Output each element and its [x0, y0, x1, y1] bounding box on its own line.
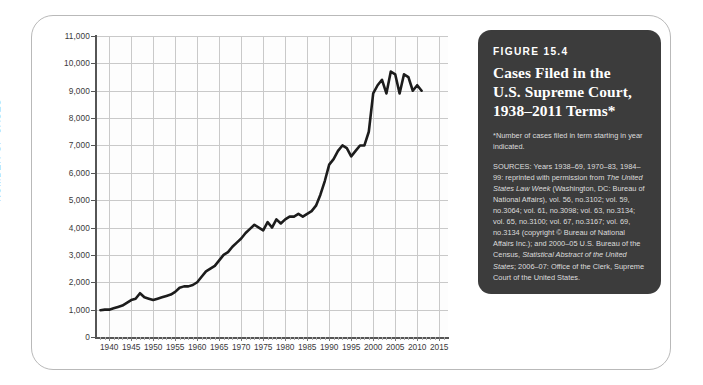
- x-axis-minor-tick: [369, 337, 370, 340]
- x-axis-minor-tick: [246, 337, 247, 340]
- sources-text-2: (Washington, DC: Bureau of National Affa…: [493, 184, 645, 260]
- x-axis-tick-mark: [285, 337, 286, 341]
- x-axis-minor-tick: [237, 337, 238, 340]
- x-axis-minor-tick: [378, 337, 379, 340]
- x-axis-minor-tick: [325, 337, 326, 340]
- x-axis-minor-tick: [158, 337, 159, 340]
- sources-text-3: ; 2006–07: Office of the Clerk, Supreme …: [493, 262, 644, 282]
- y-axis-tick-mark: [91, 200, 95, 201]
- y-axis-tick-label: 9,000: [32, 87, 90, 95]
- x-axis-minor-tick: [430, 337, 431, 340]
- x-axis-minor-tick: [171, 337, 172, 340]
- x-axis-minor-tick: [224, 337, 225, 340]
- x-axis-minor-tick: [136, 337, 137, 340]
- x-axis-minor-tick: [290, 337, 291, 340]
- figure-root: 01,0002,0003,0004,0005,0006,0007,0008,00…: [0, 0, 703, 385]
- x-axis-tick-mark: [197, 337, 198, 341]
- y-axis-tick-label: 3,000: [32, 251, 90, 259]
- y-axis-tick-label: 7,000: [32, 141, 90, 149]
- x-axis-minor-tick: [334, 337, 335, 340]
- x-axis-tick-mark: [417, 337, 418, 341]
- x-axis-minor-tick: [254, 337, 255, 340]
- caption-sources: SOURCES: Years 1938–69, 1970–83, 1984–99…: [493, 161, 646, 283]
- x-axis-minor-tick: [422, 337, 423, 340]
- x-axis-minor-tick: [149, 337, 150, 340]
- y-axis-tick-label: 6,000: [32, 169, 90, 177]
- y-axis-tick-label: 1,000: [32, 306, 90, 314]
- figure-number-label: FIGURE 15.4: [493, 46, 646, 57]
- y-axis-title: NUMBER OF CASES: [0, 98, 2, 201]
- x-axis-tick-mark: [439, 337, 440, 341]
- x-axis-tick-mark: [241, 337, 242, 341]
- x-axis-minor-tick: [272, 337, 273, 340]
- x-axis-tick-mark: [131, 337, 132, 341]
- x-axis-minor-tick: [232, 337, 233, 340]
- x-axis-minor-tick: [386, 337, 387, 340]
- x-axis-minor-tick: [188, 337, 189, 340]
- x-axis-tick-mark: [307, 337, 308, 341]
- caption-panel: FIGURE 15.4 Cases Filed in the U.S. Supr…: [478, 30, 661, 294]
- x-axis-minor-tick: [435, 337, 436, 340]
- x-axis-tick-mark: [351, 337, 352, 341]
- x-axis-minor-tick: [426, 337, 427, 340]
- x-axis-minor-tick: [316, 337, 317, 340]
- y-axis-tick-mark: [91, 282, 95, 283]
- x-axis-minor-tick: [228, 337, 229, 340]
- x-axis-minor-tick: [114, 337, 115, 340]
- y-axis-tick-mark: [91, 310, 95, 311]
- y-axis-tick-label: 2,000: [32, 278, 90, 286]
- y-axis-tick-mark: [91, 63, 95, 64]
- y-axis-tick-mark: [91, 228, 95, 229]
- caption-title-line-2: U.S. Supreme Court,: [493, 83, 646, 102]
- x-axis-tick-mark: [373, 337, 374, 341]
- y-axis-tick-label: 4,000: [32, 224, 90, 232]
- x-axis-minor-tick: [118, 337, 119, 340]
- y-axis-tick-label: 5,000: [32, 196, 90, 204]
- x-axis-minor-tick: [127, 337, 128, 340]
- x-axis-minor-tick: [294, 337, 295, 340]
- x-axis-minor-tick: [347, 337, 348, 340]
- x-axis-minor-tick: [100, 337, 101, 340]
- y-axis-tick-mark: [91, 91, 95, 92]
- x-axis-minor-tick: [206, 337, 207, 340]
- x-axis-minor-tick: [382, 337, 383, 340]
- x-axis-minor-tick: [281, 337, 282, 340]
- x-axis-minor-tick: [338, 337, 339, 340]
- x-axis-tick-mark: [175, 337, 176, 341]
- x-axis-tick-mark: [329, 337, 330, 341]
- x-axis-minor-tick: [166, 337, 167, 340]
- x-axis-minor-tick: [320, 337, 321, 340]
- x-axis-tick-mark: [219, 337, 220, 341]
- x-axis-minor-tick: [268, 337, 269, 340]
- x-axis-minor-tick: [122, 337, 123, 340]
- x-axis-minor-tick: [303, 337, 304, 340]
- x-axis-minor-tick: [215, 337, 216, 340]
- x-axis-tick-mark: [263, 337, 264, 341]
- x-axis-minor-tick: [360, 337, 361, 340]
- x-axis-tick-mark: [395, 337, 396, 341]
- x-axis-minor-tick: [364, 337, 365, 340]
- sources-label: SOURCES:: [493, 162, 532, 171]
- x-axis-minor-tick: [276, 337, 277, 340]
- x-axis-minor-tick: [413, 337, 414, 340]
- x-axis-minor-tick: [408, 337, 409, 340]
- x-axis-minor-tick: [312, 337, 313, 340]
- y-axis-tick-mark: [91, 36, 95, 37]
- x-axis-minor-tick: [144, 337, 145, 340]
- caption-title-line-3: 1938–2011 Terms*: [493, 102, 646, 121]
- x-axis-minor-tick: [184, 337, 185, 340]
- caption-title: Cases Filed in the U.S. Supreme Court, 1…: [493, 64, 646, 120]
- x-axis-minor-tick: [162, 337, 163, 340]
- y-axis-tick-label: 0: [32, 333, 90, 341]
- caption-footnote: *Number of cases filed in term starting …: [493, 130, 646, 152]
- x-axis-minor-tick: [193, 337, 194, 340]
- y-axis-tick-mark: [91, 118, 95, 119]
- x-axis-minor-tick: [444, 337, 445, 340]
- x-axis-minor-tick: [356, 337, 357, 340]
- x-axis-minor-tick: [298, 337, 299, 340]
- x-axis-tick-mark: [153, 337, 154, 341]
- x-axis-minor-tick: [250, 337, 251, 340]
- x-axis-minor-tick: [180, 337, 181, 340]
- y-axis-tick-mark: [91, 337, 95, 338]
- y-axis-tick-mark: [91, 145, 95, 146]
